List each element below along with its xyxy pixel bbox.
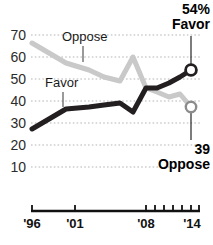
x-axis-label-01: '01 (55, 216, 95, 231)
x-axis-label-14: '14 (172, 216, 212, 231)
callout-oppose: 39 Oppose (158, 142, 210, 172)
y-axis-label-40: 40 (0, 93, 26, 109)
inline-label-favor: Favor (45, 75, 78, 90)
x-axis (31, 205, 200, 211)
inline-label-oppose: Oppose (62, 29, 108, 44)
callout-favor-value: 54% (182, 1, 210, 17)
y-axis-label-30: 30 (0, 115, 26, 131)
y-axis-label-70: 70 (0, 27, 26, 43)
endpoint-marker-favor (186, 65, 197, 76)
y-axis-label-60: 60 (0, 49, 26, 65)
callout-favor: 54% Favor (172, 2, 210, 32)
callout-favor-name: Favor (172, 17, 210, 32)
callout-oppose-name: Oppose (158, 157, 210, 172)
y-axis-label-50: 50 (0, 71, 26, 87)
y-axis-label-20: 20 (0, 137, 26, 153)
x-axis-label-08: '08 (126, 216, 166, 231)
callout-oppose-value: 39 (194, 141, 210, 157)
x-axis-label-96: '96 (12, 216, 52, 231)
endpoint-marker-oppose (186, 102, 196, 112)
y-axis-label-10: 10 (0, 159, 26, 175)
